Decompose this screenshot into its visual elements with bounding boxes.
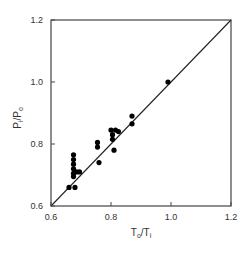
data-point	[72, 185, 77, 190]
x-axis-label: To/Ti	[131, 227, 152, 239]
data-point	[96, 160, 101, 165]
data-point	[129, 114, 134, 119]
data-point	[108, 127, 113, 132]
y-tick-label: 0.6	[30, 201, 43, 211]
y-axis-label: Pi/Po	[12, 107, 24, 129]
data-point	[71, 157, 76, 162]
y-tick-label: 1.2	[30, 15, 43, 25]
x-tick-label: 1.0	[165, 212, 178, 222]
data-point	[71, 162, 76, 167]
data-point	[116, 129, 121, 134]
data-point	[165, 79, 170, 84]
y-tick-label: 0.8	[30, 139, 43, 149]
data-point	[71, 152, 76, 157]
data-point	[110, 137, 115, 142]
data-point	[129, 121, 134, 126]
scatter-chart: 0.60.81.01.20.60.81.01.2 To/Ti Pi/Po	[0, 0, 251, 254]
data-point	[95, 145, 100, 150]
data-point	[66, 185, 71, 190]
x-tick-label: 0.6	[45, 212, 58, 222]
x-tick-label: 1.2	[225, 212, 238, 222]
data-point	[95, 140, 100, 145]
data-point	[110, 132, 115, 137]
reference-line-y-equals-x	[51, 20, 231, 206]
data-point	[71, 174, 76, 179]
y-tick-label: 1.0	[30, 77, 43, 87]
x-tick-label: 0.8	[105, 212, 118, 222]
data-point	[111, 148, 116, 153]
data-point	[77, 169, 82, 174]
